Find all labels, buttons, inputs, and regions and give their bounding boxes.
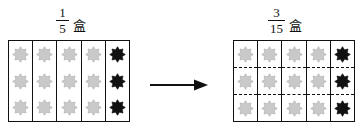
unshaded-rosette-icon bbox=[237, 73, 254, 90]
unshaded-item-cell bbox=[282, 41, 305, 67]
unshaded-item-cell bbox=[307, 67, 330, 94]
unshaded-rosette-icon bbox=[237, 46, 254, 63]
unshaded-rosette-icon bbox=[85, 46, 102, 63]
right-numerator: 3 bbox=[271, 6, 282, 20]
right-fraction-label: 3 15 盒 bbox=[268, 6, 302, 35]
unshaded-rosette-icon bbox=[286, 73, 303, 90]
right-arrow-icon bbox=[150, 78, 210, 92]
unshaded-item-cell bbox=[33, 68, 56, 95]
shaded-rosette-icon bbox=[334, 46, 351, 63]
left-unit-label: 盒 bbox=[73, 15, 86, 35]
right-fraction: 3 15 bbox=[268, 6, 285, 35]
shaded-item-cell bbox=[106, 41, 129, 68]
unshaded-rosette-icon bbox=[85, 99, 102, 116]
grid-column bbox=[9, 41, 32, 121]
grid-column bbox=[56, 41, 80, 121]
grid-column bbox=[306, 41, 330, 121]
left-numerator: 1 bbox=[57, 6, 68, 20]
unshaded-item-cell bbox=[82, 41, 105, 68]
shaded-item-cell bbox=[106, 68, 129, 95]
unshaded-rosette-icon bbox=[85, 73, 102, 90]
shaded-item-cell bbox=[106, 94, 129, 121]
right-denominator: 15 bbox=[268, 21, 285, 35]
unshaded-item-cell bbox=[282, 67, 305, 94]
unshaded-rosette-icon bbox=[12, 46, 29, 63]
unshaded-rosette-icon bbox=[310, 100, 327, 117]
unshaded-rosette-icon bbox=[286, 46, 303, 63]
unshaded-rosette-icon bbox=[310, 46, 327, 63]
grid-column bbox=[81, 41, 105, 121]
shaded-item-cell bbox=[331, 41, 354, 67]
unshaded-item-cell bbox=[258, 41, 281, 67]
unshaded-item-cell bbox=[9, 41, 32, 68]
shaded-rosette-icon bbox=[109, 99, 126, 116]
unshaded-item-cell bbox=[9, 68, 32, 95]
grid-column bbox=[32, 41, 56, 121]
right-area-model-grid bbox=[233, 40, 355, 122]
unshaded-rosette-icon bbox=[261, 100, 278, 117]
unshaded-item-cell bbox=[82, 94, 105, 121]
unshaded-item-cell bbox=[307, 41, 330, 67]
grid-column bbox=[234, 41, 257, 121]
unshaded-item-cell bbox=[57, 68, 80, 95]
unshaded-rosette-icon bbox=[261, 73, 278, 90]
unshaded-rosette-icon bbox=[12, 99, 29, 116]
left-fraction-label: 1 5 盒 bbox=[56, 6, 86, 35]
unshaded-item-cell bbox=[258, 94, 281, 121]
shaded-rosette-icon bbox=[334, 100, 351, 117]
unshaded-item-cell bbox=[234, 41, 257, 67]
left-fraction: 1 5 bbox=[56, 6, 69, 35]
unshaded-item-cell bbox=[307, 94, 330, 121]
unshaded-rosette-icon bbox=[36, 73, 53, 90]
unshaded-rosette-icon bbox=[36, 46, 53, 63]
grid-column bbox=[281, 41, 305, 121]
unshaded-rosette-icon bbox=[310, 73, 327, 90]
grid-column bbox=[257, 41, 281, 121]
unshaded-item-cell bbox=[33, 94, 56, 121]
unshaded-rosette-icon bbox=[36, 99, 53, 116]
unshaded-rosette-icon bbox=[261, 46, 278, 63]
unshaded-rosette-icon bbox=[237, 100, 254, 117]
unshaded-item-cell bbox=[258, 67, 281, 94]
shaded-rosette-icon bbox=[109, 46, 126, 63]
shaded-rosette-icon bbox=[109, 73, 126, 90]
unshaded-rosette-icon bbox=[12, 73, 29, 90]
diagram-canvas: 1 5 盒 3 15 盒 bbox=[0, 0, 361, 138]
left-area-model-grid bbox=[8, 40, 130, 122]
unshaded-item-cell bbox=[234, 67, 257, 94]
unshaded-item-cell bbox=[282, 94, 305, 121]
unshaded-item-cell bbox=[82, 68, 105, 95]
unshaded-rosette-icon bbox=[286, 100, 303, 117]
unshaded-item-cell bbox=[57, 41, 80, 68]
unshaded-rosette-icon bbox=[61, 46, 78, 63]
right-unit-label: 盒 bbox=[289, 15, 302, 35]
shaded-rosette-icon bbox=[334, 73, 351, 90]
shaded-item-cell bbox=[331, 94, 354, 121]
grid-column bbox=[105, 41, 129, 121]
unshaded-item-cell bbox=[234, 94, 257, 121]
shaded-item-cell bbox=[331, 67, 354, 94]
unshaded-rosette-icon bbox=[61, 73, 78, 90]
unshaded-item-cell bbox=[57, 94, 80, 121]
unshaded-item-cell bbox=[9, 94, 32, 121]
unshaded-rosette-icon bbox=[61, 99, 78, 116]
unshaded-item-cell bbox=[33, 41, 56, 68]
left-denominator: 5 bbox=[57, 21, 68, 35]
grid-column bbox=[330, 41, 354, 121]
